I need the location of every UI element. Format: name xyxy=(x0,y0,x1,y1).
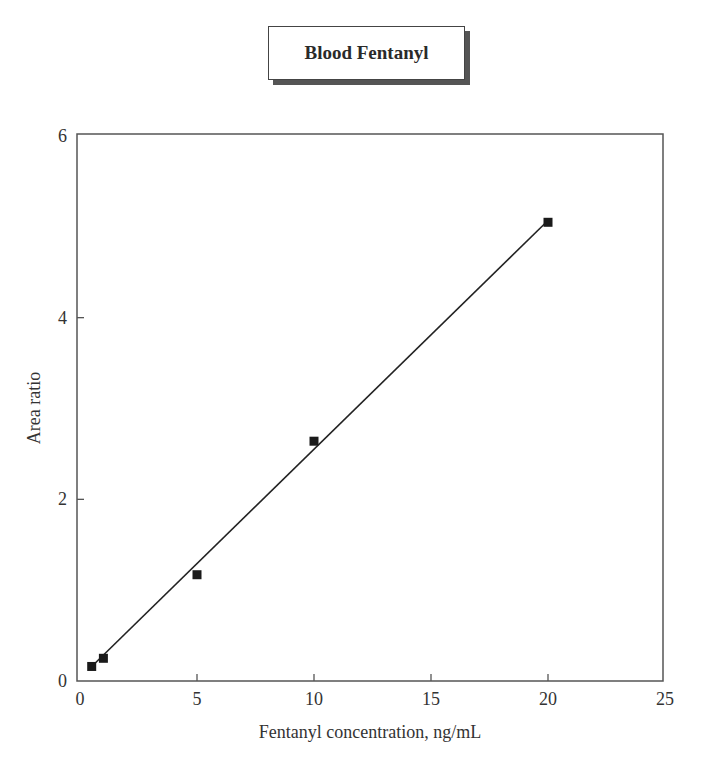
data-point-square xyxy=(310,437,319,446)
y-tick-label: 4 xyxy=(58,308,67,328)
y-tick-label: 2 xyxy=(58,489,67,509)
plot-frame xyxy=(77,134,663,681)
x-tick-label: 5 xyxy=(193,689,202,709)
data-point-square xyxy=(87,662,96,671)
axes xyxy=(77,134,663,681)
x-tick-label: 0 xyxy=(76,689,85,709)
fit-line xyxy=(92,220,548,666)
x-tick-label: 10 xyxy=(305,689,323,709)
x-tick-label: 15 xyxy=(422,689,440,709)
data-point-square xyxy=(193,570,202,579)
y-tick-label: 6 xyxy=(58,126,67,146)
x-axis-label: Fentanyl concentration, ng/mL xyxy=(259,722,481,742)
data-point-square xyxy=(99,654,108,663)
plot-area: 05101520250246 Fentanyl concentration, n… xyxy=(0,0,702,774)
data-point-square xyxy=(544,218,553,227)
regression-line xyxy=(92,220,548,666)
y-tick-label: 0 xyxy=(58,671,67,691)
y-axis-label: Area ratio xyxy=(24,372,44,444)
tick-marks: 05101520250246 xyxy=(58,126,674,709)
x-tick-label: 20 xyxy=(539,689,557,709)
x-tick-label: 25 xyxy=(656,689,674,709)
